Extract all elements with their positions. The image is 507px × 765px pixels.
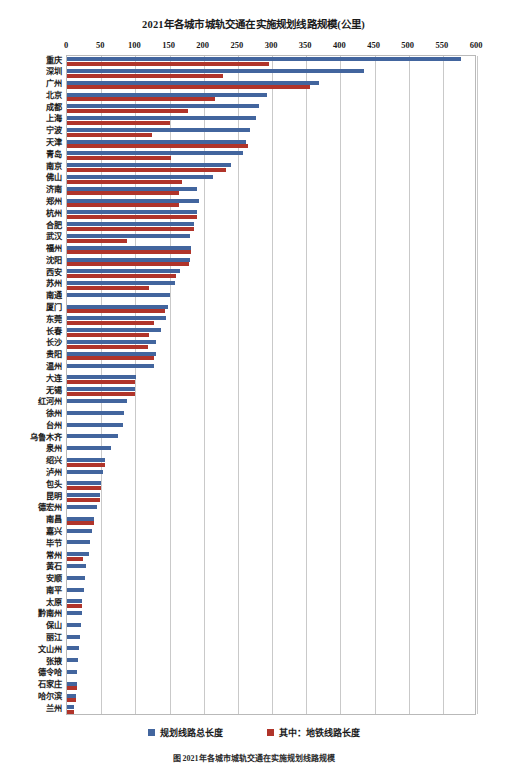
category-label: 长沙 bbox=[46, 338, 62, 347]
bar-row bbox=[67, 269, 475, 281]
bar-total bbox=[67, 481, 101, 485]
category-label: 郑州 bbox=[46, 197, 62, 206]
category-label: 张掖 bbox=[46, 657, 62, 666]
bar-metro bbox=[67, 156, 171, 160]
bar-metro bbox=[67, 74, 223, 78]
bar-metro bbox=[67, 227, 194, 231]
bar-row bbox=[67, 576, 475, 588]
category-label: 昆明 bbox=[46, 492, 62, 501]
category-label: 北京 bbox=[46, 91, 62, 100]
bar-metro bbox=[67, 85, 310, 89]
bar-row bbox=[67, 375, 475, 387]
bar-metro bbox=[67, 498, 100, 502]
category-label: 大连 bbox=[46, 374, 62, 383]
bar-metro bbox=[67, 109, 188, 113]
bar-row bbox=[67, 293, 475, 305]
category-label: 厦门 bbox=[46, 303, 62, 312]
bar-total bbox=[67, 399, 127, 403]
bar-metro bbox=[67, 557, 83, 561]
category-label: 文山州 bbox=[38, 645, 62, 654]
bar-row bbox=[67, 222, 475, 234]
category-label: 黄石 bbox=[46, 562, 62, 571]
bar-row bbox=[67, 540, 475, 552]
bar-row bbox=[67, 69, 475, 81]
category-label: 深圳 bbox=[46, 67, 62, 76]
category-label: 合肥 bbox=[46, 221, 62, 230]
bar-total bbox=[67, 163, 231, 167]
bar-row bbox=[67, 481, 475, 493]
bar-row bbox=[67, 529, 475, 541]
category-label: 佛山 bbox=[46, 173, 62, 182]
x-axis-tick-label: 200 bbox=[196, 40, 209, 50]
bar-metro bbox=[67, 262, 189, 266]
legend-item[interactable]: 其中：地铁线路长度 bbox=[267, 726, 360, 739]
bar-total bbox=[67, 682, 77, 686]
category-label: 台州 bbox=[46, 421, 62, 430]
bar-total bbox=[67, 281, 175, 285]
bar-metro bbox=[67, 604, 82, 608]
x-axis-ticks: 050100150200250300350400450500550600 bbox=[66, 40, 476, 54]
bar-row bbox=[67, 199, 475, 211]
legend-item[interactable]: 规划线路总长度 bbox=[148, 726, 223, 739]
category-label: 苏州 bbox=[46, 279, 62, 288]
legend-label: 规划线路总长度 bbox=[160, 726, 223, 739]
category-label: 嘉兴 bbox=[46, 527, 62, 536]
bar-total bbox=[67, 423, 123, 427]
bar-total bbox=[67, 658, 78, 662]
bar-row bbox=[67, 670, 475, 682]
bar-row bbox=[67, 281, 475, 293]
bar-total bbox=[67, 387, 135, 391]
category-label: 毕节 bbox=[46, 539, 62, 548]
bar-total bbox=[67, 458, 105, 462]
bar-total bbox=[67, 375, 136, 379]
bar-row bbox=[67, 694, 475, 706]
category-label: 沈阳 bbox=[46, 256, 62, 265]
category-label: 兰州 bbox=[46, 704, 62, 713]
bar-row bbox=[67, 552, 475, 564]
bar-row bbox=[67, 316, 475, 328]
category-label: 南昌 bbox=[46, 515, 62, 524]
bar-total bbox=[67, 446, 111, 450]
category-label: 泸州 bbox=[46, 468, 62, 477]
category-label: 成都 bbox=[46, 103, 62, 112]
bar-row bbox=[67, 646, 475, 658]
bar-metro bbox=[67, 274, 176, 278]
bar-total bbox=[67, 564, 86, 568]
x-axis-tick-label: 600 bbox=[470, 40, 483, 50]
category-label: 福州 bbox=[46, 244, 62, 253]
bar-total bbox=[67, 411, 124, 415]
bar-total bbox=[67, 694, 76, 698]
bar-metro bbox=[67, 286, 149, 290]
category-label: 包头 bbox=[46, 480, 62, 489]
bar-total bbox=[67, 246, 191, 250]
category-label: 天津 bbox=[46, 138, 62, 147]
category-label: 宁波 bbox=[46, 126, 62, 135]
bar-metro bbox=[67, 203, 179, 207]
bar-row bbox=[67, 246, 475, 258]
bar-metro bbox=[67, 133, 152, 137]
bar-row bbox=[67, 140, 475, 152]
bar-total bbox=[67, 340, 156, 344]
bar-metro bbox=[67, 121, 170, 125]
bar-total bbox=[67, 352, 156, 356]
category-labels: 重庆深圳广州北京成都上海宁波天津青岛南京佛山济南郑州杭州合肥武汉福州沈阳西安苏州… bbox=[0, 55, 64, 715]
bar-metro bbox=[67, 521, 94, 525]
category-label: 石家庄 bbox=[38, 680, 62, 689]
bar-total bbox=[67, 328, 161, 332]
bar-total bbox=[67, 705, 74, 709]
bar-total bbox=[67, 140, 246, 144]
category-label: 西安 bbox=[46, 268, 62, 277]
bar-total bbox=[67, 175, 213, 179]
category-label: 保山 bbox=[46, 621, 62, 630]
bar-total bbox=[67, 269, 180, 273]
bar-row bbox=[67, 434, 475, 446]
bar-row bbox=[67, 505, 475, 517]
bar-rows bbox=[67, 56, 475, 714]
bar-total bbox=[67, 316, 166, 320]
bar-total bbox=[67, 588, 84, 592]
category-label: 温州 bbox=[46, 362, 62, 371]
bar-row bbox=[67, 151, 475, 163]
x-axis-tick-label: 400 bbox=[333, 40, 346, 50]
bar-total bbox=[67, 187, 197, 191]
category-label: 长春 bbox=[46, 327, 62, 336]
